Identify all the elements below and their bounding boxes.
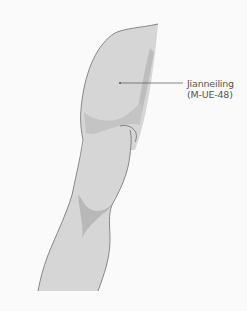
acupoint-code: (M-UE-48) (187, 89, 234, 100)
diagram-canvas: Jianneiling (M-UE-48) (0, 0, 247, 311)
acupoint-name: Jianneiling (187, 78, 234, 89)
arm-illustration (0, 0, 247, 311)
acupoint-label: Jianneiling (M-UE-48) (187, 78, 234, 100)
acupoint-marker (119, 82, 121, 84)
